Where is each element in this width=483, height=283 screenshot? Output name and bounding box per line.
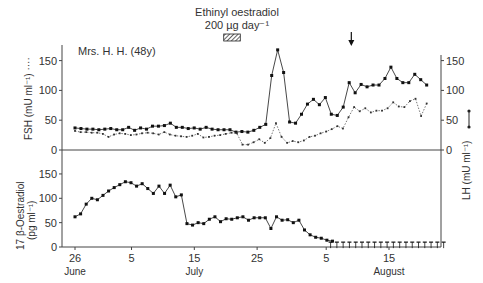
lh-point [282,71,285,74]
fsh-point [253,141,255,143]
fsh-point [191,135,193,137]
oestradiol-axis-label: 17 β-Oestradiol [15,181,26,250]
oestradiol-point [292,221,295,224]
lh-point [127,126,130,129]
lh-point [175,126,178,129]
fsh-point [247,144,249,146]
fsh-point [376,110,378,112]
fsh-point [236,132,238,134]
fsh-point [230,132,232,134]
treatment-label-line2: 200 µg day⁻¹ [205,19,270,31]
fsh-point [214,135,216,137]
oestradiol-point [303,228,306,231]
fsh-point [309,136,311,138]
lh-point [419,78,422,81]
month-label: August [373,266,404,277]
oestradiol-point [286,218,289,221]
oestradiol-point [146,187,149,190]
oestradiol-point [107,189,110,192]
oestradiol-point [90,197,93,200]
lh-point [217,128,220,131]
fsh-point [136,134,138,136]
oestradiol-point [124,180,127,183]
oestradiol-point [213,215,216,218]
month-label: July [185,266,203,277]
x-tick-label: 26 [69,252,81,264]
oestradiol-point [197,221,200,224]
lh-point [133,129,136,132]
lh-point [306,103,309,106]
lh-point [211,128,214,131]
lh-point [79,127,82,130]
oestradiol-point [118,183,121,186]
oestradiol-point [269,227,272,230]
fsh-line [75,99,427,145]
oestradiol-point [129,181,132,184]
oestradiol-point [85,203,88,206]
oestradiol-point [180,193,183,196]
fsh-point [353,106,355,108]
lh-point [187,127,190,130]
lh-point [372,84,375,87]
fsh-tick-label: 50 [45,114,57,126]
lh-point [377,84,380,87]
oestradiol-point [247,219,250,222]
oestradiol-point [152,192,155,195]
oestradiol-point [101,194,104,197]
fsh-point [336,125,338,127]
lh-point [157,125,160,128]
oestradiol-point [309,233,312,236]
lh-point [425,84,428,87]
fsh-point [91,132,93,134]
lh-point [85,128,88,131]
fsh-point [175,135,177,137]
fsh-point [342,128,344,130]
fsh-point [409,100,411,102]
oestradiol-point [320,237,323,240]
lh-tick-label: 150 [446,55,464,67]
lh-point [199,128,202,131]
fsh-point [403,106,405,108]
month-label: June [64,266,86,277]
fsh-point [370,112,372,114]
oestradiol-point [241,215,244,218]
arrow-down-icon [348,40,354,46]
lh-point [318,103,321,106]
lh-point [181,126,184,129]
x-tick-label: 15 [383,252,395,264]
treatment-bar [224,34,241,41]
lh-point [366,85,369,88]
fsh-point [113,134,115,136]
fsh-tick-label: 100 [39,84,57,96]
fsh-point [303,140,305,142]
lh-point [383,77,386,80]
fsh-point [258,138,260,140]
lh-point [395,77,398,80]
x-tick-label: 15 [188,252,200,264]
fsh-point [197,133,199,135]
marks-group [74,48,446,248]
fsh-point [325,131,327,133]
fsh-point [286,142,288,144]
fsh-point [264,142,266,144]
fsh-point [147,132,149,134]
oestradiol-tick-label: 100 [39,192,57,204]
fsh-point [225,133,227,135]
oestradiol-point [141,182,144,185]
fsh-point [348,116,350,118]
lh-point [330,113,333,116]
oestradiol-tick-label: 0 [51,241,57,253]
lh-point [348,81,351,84]
lh-point [223,128,226,131]
fsh-point [152,132,154,134]
lh-point [276,48,279,51]
lh-point [193,126,196,129]
fsh-point [387,107,389,109]
fsh-point [292,140,294,142]
lh-point [312,98,315,101]
lh-legend-dot [467,125,470,128]
lh-point [145,128,148,131]
fsh-point [108,136,110,138]
lh-point [354,91,357,94]
oestradiol-point [208,218,211,221]
